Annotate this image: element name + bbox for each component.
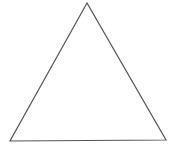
diagram-canvas xyxy=(0,0,174,151)
triangle-shape xyxy=(10,3,166,141)
triangle-figure xyxy=(0,0,174,151)
